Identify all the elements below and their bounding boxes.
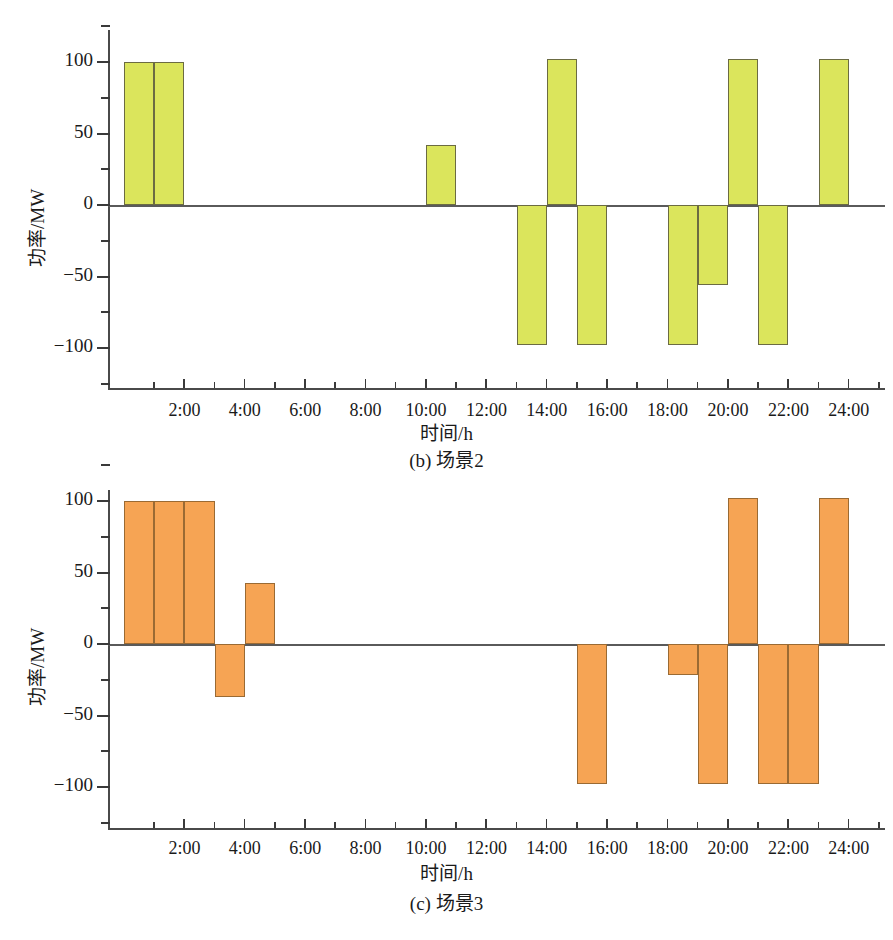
bar	[728, 498, 758, 644]
x-tick-minor	[697, 822, 699, 828]
x-tick-major	[304, 819, 306, 828]
y-tick-major	[97, 500, 110, 502]
x-tick-minor	[274, 382, 276, 388]
x-tick-major	[244, 819, 246, 828]
y-tick-minor	[101, 679, 110, 681]
x-tick-major	[546, 819, 548, 828]
x-tick-major	[667, 379, 669, 388]
bar	[547, 59, 577, 205]
x-tick-minor	[516, 822, 518, 828]
y-tick-label: 50	[13, 560, 93, 582]
bar	[668, 644, 698, 675]
x-tick-minor	[878, 822, 880, 828]
x-tick-minor	[636, 382, 638, 388]
x-tick-minor	[636, 822, 638, 828]
bar	[758, 205, 788, 345]
y-axis-line	[108, 30, 110, 388]
y-tick-label: 50	[13, 121, 93, 143]
bar	[154, 501, 184, 644]
subfigure-caption-c: (c) 场景3	[0, 888, 893, 915]
y-tick-label: −100	[13, 774, 93, 796]
x-tick-minor	[334, 382, 336, 388]
y-tick-major	[97, 276, 110, 278]
figure-page: 100500−50−100功率/MW2:004:006:008:0010:001…	[0, 0, 893, 940]
x-tick-major	[727, 819, 729, 828]
x-tick-minor	[274, 822, 276, 828]
x-tick-major	[606, 819, 608, 828]
y-tick-major	[97, 572, 110, 574]
x-tick-minor	[334, 822, 336, 828]
y-axis-cap	[101, 464, 110, 466]
x-tick-minor	[757, 382, 759, 388]
x-tick-minor	[878, 382, 880, 388]
bar	[215, 644, 245, 697]
x-tick-major	[183, 819, 185, 828]
x-tick-major	[304, 379, 306, 388]
x-tick-major	[606, 379, 608, 388]
chart-scenario-2: 100500−50−100功率/MW2:004:006:008:0010:001…	[0, 0, 893, 470]
y-axis-cap	[101, 822, 110, 824]
x-tick-major	[425, 819, 427, 828]
x-tick-minor	[576, 382, 578, 388]
chart-scenario-3: 100500−50−100功率/MW2:004:006:008:0010:001…	[0, 460, 893, 940]
x-tick-major	[485, 819, 487, 828]
bar	[819, 498, 849, 644]
bar	[577, 205, 607, 345]
y-tick-label: 100	[13, 488, 93, 510]
y-tick-minor	[101, 311, 110, 313]
x-axis-title: 时间/h	[0, 858, 893, 885]
bar	[124, 62, 154, 205]
bar	[698, 205, 728, 285]
bar	[819, 59, 849, 205]
y-axis-title: 功率/MW	[22, 628, 49, 706]
y-axis-line	[108, 490, 110, 828]
x-tick-minor	[395, 822, 397, 828]
y-axis-cap	[101, 25, 110, 27]
x-tick-minor	[455, 382, 457, 388]
x-tick-major	[787, 819, 789, 828]
x-tick-major	[848, 379, 850, 388]
x-tick-minor	[818, 822, 820, 828]
bar	[184, 501, 214, 644]
y-tick-minor	[101, 168, 110, 170]
y-tick-label: −100	[13, 335, 93, 357]
x-tick-label: 24:00	[814, 838, 884, 859]
x-axis-title: 时间/h	[0, 418, 893, 445]
bar	[517, 205, 547, 345]
x-tick-minor	[516, 382, 518, 388]
bar	[426, 145, 456, 205]
x-tick-major	[425, 379, 427, 388]
y-axis-title: 功率/MW	[22, 189, 49, 267]
y-tick-major	[97, 715, 110, 717]
x-tick-minor	[153, 822, 155, 828]
x-tick-major	[546, 379, 548, 388]
x-tick-major	[667, 819, 669, 828]
x-tick-major	[848, 819, 850, 828]
y-tick-minor	[101, 750, 110, 752]
bar	[154, 62, 184, 205]
x-tick-minor	[697, 382, 699, 388]
y-tick-minor	[101, 240, 110, 242]
y-tick-minor	[101, 607, 110, 609]
x-axis-line	[108, 828, 885, 830]
bar	[124, 501, 154, 644]
y-tick-major	[97, 347, 110, 349]
bar	[728, 59, 758, 205]
bar	[758, 644, 788, 784]
y-tick-label: 100	[13, 49, 93, 71]
y-tick-minor	[101, 97, 110, 99]
x-tick-major	[244, 379, 246, 388]
bar	[668, 205, 698, 345]
x-tick-major	[365, 819, 367, 828]
y-tick-major	[97, 133, 110, 135]
x-tick-minor	[455, 822, 457, 828]
y-axis-cap	[101, 383, 110, 385]
bar	[698, 644, 728, 784]
y-tick-major	[97, 61, 110, 63]
x-tick-minor	[214, 822, 216, 828]
x-axis-line	[108, 388, 885, 390]
bar	[788, 644, 818, 784]
x-tick-major	[485, 379, 487, 388]
y-tick-major	[97, 643, 110, 645]
x-tick-minor	[395, 382, 397, 388]
